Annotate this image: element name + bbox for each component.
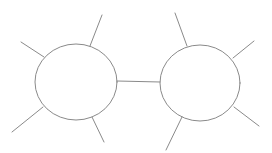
left-node-spoke bbox=[90, 15, 102, 46]
left-node-spoke bbox=[92, 117, 104, 142]
edges-group bbox=[117, 81, 160, 82]
right-node-ellipse bbox=[160, 45, 240, 121]
right-node-spoke bbox=[234, 107, 259, 126]
diagram-canvas bbox=[0, 0, 272, 153]
nodes-group bbox=[35, 44, 240, 121]
connector-edge bbox=[117, 81, 160, 82]
left-node-spoke bbox=[21, 42, 44, 57]
left-node-spoke bbox=[12, 107, 43, 132]
right-node-spoke bbox=[175, 13, 187, 46]
right-node-spoke bbox=[233, 41, 254, 58]
right-node-spoke bbox=[166, 117, 182, 150]
left-node-ellipse bbox=[35, 44, 117, 120]
